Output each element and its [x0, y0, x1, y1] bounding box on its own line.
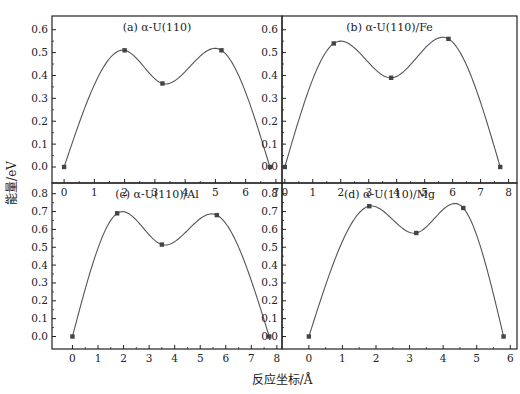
- x-tick-label: 2: [373, 352, 380, 364]
- y-tick-label: 0.1: [31, 312, 48, 324]
- y-tick-label: 0.6: [261, 223, 278, 235]
- x-tick-label: 8: [274, 352, 281, 364]
- y-tick-label: 0.3: [31, 92, 48, 104]
- x-tick-label: 0: [61, 186, 68, 198]
- y-tick-label: 0.5: [261, 241, 278, 253]
- panel-frame: [52, 16, 282, 183]
- x-tick-label: 5: [473, 352, 480, 364]
- y-tick-label: 0.2: [261, 115, 278, 127]
- x-tick-label: 0: [69, 352, 76, 364]
- panel-title: (c) α-U(110)/Al: [115, 188, 199, 201]
- data-point-marker: [122, 48, 126, 52]
- panel-c: 0123456780.00.10.20.30.40.50.60.70.8(c) …: [31, 183, 282, 364]
- x-tick-label: 0: [306, 352, 313, 364]
- energy-curve: [64, 48, 270, 167]
- x-tick-label: 1: [309, 186, 316, 198]
- x-tick-label: 1: [95, 352, 102, 364]
- y-tick-label: 0.1: [261, 138, 278, 150]
- x-tick-label: 7: [248, 352, 255, 364]
- y-tick-label: 0.0: [31, 160, 48, 172]
- y-axis-label: 能量/eV: [5, 161, 19, 205]
- data-point-marker: [389, 76, 393, 80]
- y-tick-label: 0.8: [261, 187, 278, 199]
- data-point-marker: [115, 211, 119, 215]
- y-tick-label: 0.3: [261, 276, 278, 288]
- figure: 012345670.00.10.20.30.40.50.6(a) α-U(110…: [0, 0, 520, 394]
- data-point-marker: [332, 41, 336, 45]
- y-tick-label: 0.2: [31, 115, 48, 127]
- data-point-marker: [501, 334, 505, 338]
- x-tick-label: 1: [339, 352, 346, 364]
- panel-frame: [282, 16, 517, 183]
- x-tick-label: 6: [507, 352, 514, 364]
- x-tick-label: 2: [120, 352, 127, 364]
- x-tick-label: 7: [477, 186, 484, 198]
- x-tick-label: 5: [197, 352, 204, 364]
- data-point-marker: [307, 334, 311, 338]
- y-tick-label: 0.5: [31, 241, 48, 253]
- data-point-marker: [215, 213, 219, 217]
- data-point-marker: [160, 81, 164, 85]
- x-tick-label: 3: [146, 352, 153, 364]
- x-tick-label: 3: [406, 352, 413, 364]
- x-tick-label: 5: [212, 186, 219, 198]
- y-tick-label: 0.6: [31, 223, 48, 235]
- data-point-marker: [461, 206, 465, 210]
- y-tick-label: 0.7: [261, 205, 278, 217]
- y-tick-label: 0.3: [31, 276, 48, 288]
- y-tick-label: 0.4: [261, 259, 278, 271]
- y-tick-label: 0.6: [31, 23, 48, 35]
- x-tick-label: 6: [222, 352, 229, 364]
- y-tick-label: 0.4: [31, 69, 48, 81]
- y-tick-label: 0.5: [261, 46, 278, 58]
- energy-curve: [309, 204, 504, 337]
- data-point-marker: [219, 48, 223, 52]
- y-tick-label: 0.2: [31, 294, 48, 306]
- data-point-marker: [70, 334, 74, 338]
- panel-a: 012345670.00.10.20.30.40.50.6(a) α-U(110…: [31, 16, 282, 198]
- panel-frame: [282, 183, 517, 349]
- y-tick-label: 0.0: [31, 330, 48, 342]
- x-tick-label: 4: [440, 352, 447, 364]
- y-tick-label: 0.8: [31, 187, 48, 199]
- energy-curve: [285, 37, 500, 167]
- data-point-marker: [367, 204, 371, 208]
- panel-title: (d) α-U(110)/Mg: [344, 188, 435, 201]
- data-point-marker: [414, 231, 418, 235]
- y-tick-label: 0.3: [261, 92, 278, 104]
- panel-title: (a) α-U(110): [123, 21, 192, 34]
- y-tick-label: 0.1: [261, 312, 278, 324]
- y-tick-label: 0.6: [261, 23, 278, 35]
- y-tick-label: 0.0: [261, 160, 278, 172]
- data-point-marker: [62, 165, 66, 169]
- x-axis-label: 反应坐标/Å: [252, 372, 313, 387]
- data-point-marker: [446, 37, 450, 41]
- x-tick-label: 8: [505, 186, 512, 198]
- data-point-marker: [498, 165, 502, 169]
- x-tick-label: 6: [242, 186, 249, 198]
- data-point-marker: [160, 242, 164, 246]
- y-tick-label: 0.1: [31, 138, 48, 150]
- data-point-marker: [283, 165, 287, 169]
- panel-d: 01234560.00.10.20.30.40.50.60.70.8(d) α-…: [261, 183, 517, 364]
- y-tick-label: 0.7: [31, 205, 48, 217]
- panel-title: (b) α-U(110)/Fe: [346, 21, 432, 34]
- y-tick-label: 0.5: [31, 46, 48, 58]
- panel-frame: [52, 183, 282, 349]
- y-tick-label: 0.4: [31, 259, 48, 271]
- x-tick-label: 4: [171, 352, 178, 364]
- y-tick-label: 0.4: [261, 69, 278, 81]
- x-tick-label: 1: [91, 186, 98, 198]
- panel-b: 0123456780.00.10.20.30.40.50.6(b) α-U(11…: [261, 16, 517, 198]
- y-tick-label: 0.2: [261, 294, 278, 306]
- x-tick-label: 6: [449, 186, 456, 198]
- energy-curve: [72, 212, 269, 337]
- y-tick-label: 0.0: [261, 330, 278, 342]
